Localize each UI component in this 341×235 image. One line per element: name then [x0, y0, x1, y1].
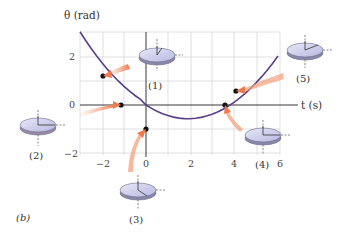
x-axis-label: t (s) [301, 100, 322, 111]
x-tick-0: 0 [143, 159, 149, 169]
x-tick-2: 2 [188, 159, 194, 169]
panel-label: (b) [16, 213, 30, 223]
x-tick-neg2: −2 [96, 159, 110, 169]
x-tick-4: 4 [231, 159, 237, 169]
disk-4-icon [245, 120, 291, 154]
y-tick-neg2: −2 [64, 149, 78, 159]
y-tick-2: 2 [69, 52, 75, 62]
y-tick-0: 0 [69, 100, 75, 110]
y-axis-label: θ (rad) [64, 10, 100, 21]
disk-1-label: (1) [148, 81, 162, 91]
marked-points [100, 73, 238, 131]
disk-2-icon [20, 110, 66, 146]
arrow-5-icon [243, 73, 284, 92]
arrow-2-icon [78, 104, 116, 117]
disk-3-label: (3) [129, 215, 143, 225]
disk-5-icon [287, 35, 332, 68]
x-tick-6: 6 [277, 159, 283, 169]
disk-5-label: (5) [296, 74, 310, 84]
disk-2-label: (2) [29, 151, 43, 161]
disk-3-icon [120, 175, 166, 210]
disk-4-label: (4) [255, 160, 269, 170]
theta-vs-time-chart [0, 0, 341, 235]
